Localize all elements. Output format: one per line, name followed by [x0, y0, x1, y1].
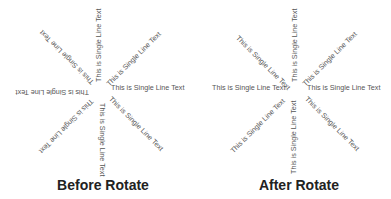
- label-315deg: This is Single Line Text: [301, 30, 359, 88]
- label-0deg: This is Single Line Text: [111, 84, 184, 92]
- label-45deg: This is Single Line Text: [303, 95, 361, 153]
- before-rotate-panel: This is Single Line Text This is Single …: [0, 0, 195, 199]
- label-135deg: This is Single Line Text: [229, 97, 287, 155]
- label-180deg: This is Single Line Text: [212, 84, 285, 92]
- label-270deg: This is Single Line Text: [291, 9, 299, 82]
- before-rotate-caption: Before Rotate: [0, 177, 206, 193]
- label-135deg: This is Single Line Text: [37, 97, 95, 155]
- before-rotate-star: This is Single Line Text This is Single …: [0, 0, 195, 160]
- after-rotate-caption: After Rotate: [196, 177, 391, 193]
- label-90deg: This is Single Line Text: [98, 103, 106, 176]
- after-rotate-star: This is Single Line Text This is Single …: [196, 0, 391, 160]
- after-rotate-panel: This is Single Line Text This is Single …: [196, 0, 391, 199]
- label-45deg: This is Single Line Text: [107, 95, 165, 153]
- label-0deg: This is Single Line Text: [307, 84, 380, 92]
- label-90deg: This is Single Line Text: [290, 101, 298, 174]
- label-270deg: This is Single Line Text: [95, 9, 103, 82]
- label-180deg: This is Single Line Text: [16, 88, 89, 96]
- label-225deg: This is Single Line Text: [38, 28, 96, 86]
- label-315deg: This is Single Line Text: [105, 30, 163, 88]
